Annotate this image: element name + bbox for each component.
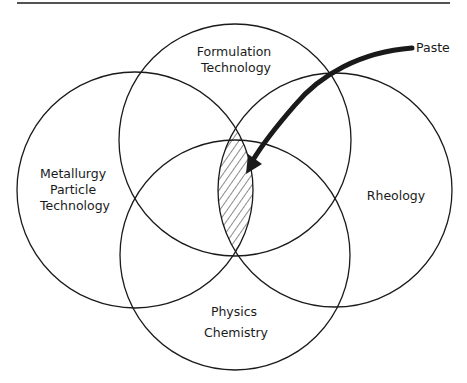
label-paste: Paste [416, 40, 450, 55]
label-rheology: Rheology [367, 188, 426, 203]
label-metallurgy: Metallurgy Particle Technology [39, 166, 111, 213]
label-formulation: Formulation Technology [197, 44, 275, 75]
label-physics-chemistry: Physics Chemistry [204, 304, 269, 340]
venn-diagram: Formulation Technology Metallurgy Partic… [0, 0, 467, 383]
